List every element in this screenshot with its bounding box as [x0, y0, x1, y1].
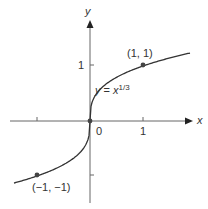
curve: [14, 53, 190, 183]
origin-label: 0: [96, 125, 102, 137]
y-axis-arrow-icon: [87, 20, 94, 28]
x-axis-label: x: [196, 114, 203, 126]
cube-root-graph: y x 1 0 1 (1, 1) (−1, −1) y = x1/3: [0, 0, 208, 209]
point-neg1-neg1: [35, 173, 40, 178]
point-label-neg1-neg1: (−1, −1): [32, 181, 71, 193]
equation-label: y = x1/3: [94, 83, 130, 96]
point-1-1: [141, 63, 146, 68]
x-tick-label-1: 1: [140, 125, 146, 137]
y-tick-label-1: 1: [78, 59, 84, 71]
point-label-1-1: (1, 1): [127, 47, 153, 59]
y-axis-label: y: [84, 5, 92, 17]
x-axis-arrow-icon: [185, 118, 193, 125]
point-origin: [88, 119, 93, 124]
